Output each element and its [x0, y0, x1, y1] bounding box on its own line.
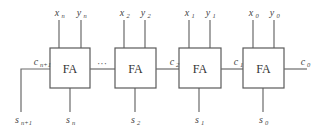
svg-text:c: c: [34, 56, 39, 67]
svg-text:s: s: [131, 114, 135, 125]
svg-text:c: c: [170, 56, 175, 67]
svg-text:x: x: [54, 7, 60, 18]
ellipsis: ···: [97, 58, 107, 69]
fa-label-2: FA: [128, 62, 143, 76]
fa-label-0: FA: [256, 62, 271, 76]
label-yn: yn: [76, 7, 87, 19]
svg-text:2: 2: [127, 12, 131, 19]
label-x1: x1: [184, 7, 195, 19]
full-adder-block-1: FA: [179, 20, 221, 112]
svg-text:0: 0: [265, 119, 269, 126]
svg-text:y: y: [205, 7, 211, 18]
svg-text:s: s: [259, 114, 263, 125]
svg-text:c: c: [301, 56, 306, 67]
label-y1: y1: [205, 7, 216, 19]
label-x0: x0: [248, 7, 260, 19]
svg-text:1: 1: [201, 119, 204, 126]
svg-text:y: y: [76, 7, 82, 18]
svg-text:y: y: [269, 7, 275, 18]
svg-text:s: s: [66, 114, 70, 125]
label-c-n-plus-1: cn+1: [34, 56, 51, 68]
svg-text:0: 0: [256, 12, 260, 19]
svg-text:s: s: [195, 114, 199, 125]
label-s2: s2: [131, 114, 141, 126]
svg-text:y: y: [140, 7, 146, 18]
label-x2: x2: [119, 7, 131, 19]
full-adder-block-2: FA: [115, 20, 156, 112]
full-adder-block-0: FA: [243, 20, 284, 112]
svg-text:0: 0: [277, 12, 281, 19]
svg-text:x: x: [184, 7, 190, 18]
label-s-n-plus-1: sn+1: [15, 114, 32, 126]
svg-text:1: 1: [240, 61, 243, 68]
svg-text:x: x: [248, 7, 254, 18]
svg-text:n: n: [84, 12, 87, 19]
label-sn: sn: [66, 114, 75, 126]
svg-text:x: x: [119, 7, 125, 18]
label-xn: xn: [54, 7, 65, 19]
carry-out-n-plus-1-wire: [21, 69, 50, 112]
fa-label-1: FA: [193, 62, 208, 76]
label-s1: s1: [195, 114, 204, 126]
label-s0: s0: [259, 114, 269, 126]
ripple-carry-adder-diagram: FA ··· FA FA FA xn yn x2 y2 x1 y1 x0 y0: [0, 0, 320, 132]
label-c1: c1: [234, 56, 243, 68]
svg-text:n+1: n+1: [40, 61, 51, 68]
svg-text:1: 1: [192, 12, 195, 19]
full-adder-block-n: FA: [50, 20, 90, 112]
fa-label-n: FA: [63, 62, 78, 76]
label-y0: y0: [269, 7, 281, 19]
svg-text:0: 0: [307, 61, 311, 68]
svg-text:2: 2: [148, 12, 152, 19]
svg-text:n+1: n+1: [21, 119, 32, 126]
svg-text:n: n: [72, 119, 75, 126]
label-y2: y2: [140, 7, 152, 19]
svg-text:s: s: [15, 114, 19, 125]
svg-text:2: 2: [137, 119, 141, 126]
svg-text:c: c: [234, 56, 239, 67]
label-c0: c0: [301, 56, 311, 68]
svg-text:n: n: [62, 12, 65, 19]
svg-text:1: 1: [213, 12, 216, 19]
